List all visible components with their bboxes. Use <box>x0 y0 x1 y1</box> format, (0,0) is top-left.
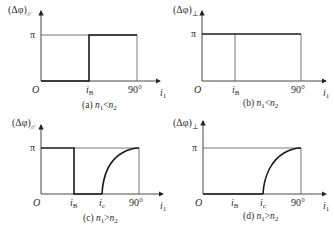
x-tick-iB: iB <box>232 84 240 97</box>
y-tick-pi: π <box>191 28 196 39</box>
panel-c: (Δφ)// π O iB ic 90° i1 (c) n1>n2 <box>12 117 167 225</box>
x-tick-90: 90° <box>291 197 305 208</box>
y-axis-label: (Δφ)⊥ <box>173 117 198 131</box>
phase-shift-diagram: (Δφ)// π O iB 90° i1 (a) n1<n2 (Δφ)⊥ π O… <box>0 0 334 236</box>
y-tick-pi: π <box>192 142 197 153</box>
y-tick-pi: π <box>30 142 35 153</box>
x-tick-ic: ic <box>99 197 105 210</box>
y-axis-label: (Δφ)// <box>8 4 32 18</box>
x-tick-90: 90° <box>291 84 305 95</box>
panel-a: (Δφ)// π O iB 90° i1 (a) n1<n2 <box>8 4 167 112</box>
origin-label: O <box>195 197 202 208</box>
origin-label: O <box>33 197 40 208</box>
x-axis-label: i1 <box>160 200 167 213</box>
phase-curve-step <box>41 148 102 194</box>
origin-label: O <box>32 84 39 95</box>
caption: (b) n1<n2 <box>243 98 279 110</box>
x-tick-iB: iB <box>70 197 78 210</box>
phase-curve-rise <box>102 148 139 194</box>
phase-curve-rise <box>263 148 301 194</box>
y-tick-pi: π <box>30 29 35 40</box>
x-tick-90: 90° <box>128 84 142 95</box>
x-tick-90: 90° <box>129 197 143 208</box>
x-axis-label: i1 <box>323 87 330 100</box>
x-tick-iB: iB <box>86 84 94 97</box>
phase-curve <box>41 35 137 81</box>
x-tick-ic: ic <box>260 197 266 210</box>
x-axis-label: i1 <box>323 200 330 213</box>
caption: (d) n1>n2 <box>243 211 279 223</box>
panel-b: (Δφ)⊥ π O iB 90° i1 (b) n1<n2 <box>173 4 330 110</box>
y-axis-label: (Δφ)// <box>12 117 36 131</box>
x-tick-iB: iB <box>231 197 239 210</box>
panel-d: (Δφ)⊥ π O iB ic 90° i1 (d) n1>n2 <box>173 117 330 223</box>
y-axis-label: (Δφ)⊥ <box>173 4 198 18</box>
caption: (a) n1<n2 <box>82 100 117 112</box>
origin-label: O <box>194 84 201 95</box>
x-axis-label: i1 <box>160 87 167 100</box>
caption: (c) n1>n2 <box>83 213 118 225</box>
